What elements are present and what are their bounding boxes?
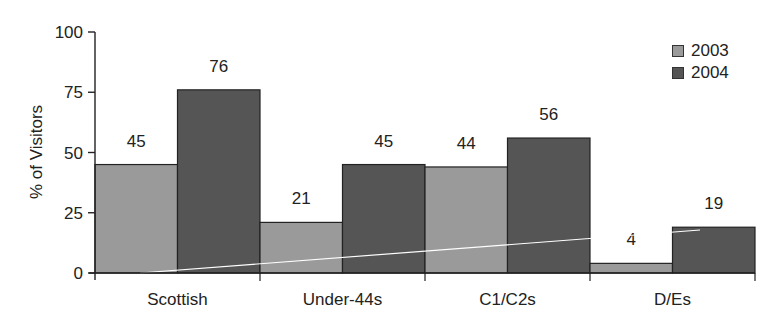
bar-2003-d-es (590, 263, 673, 273)
bar-2003-scottish (95, 165, 178, 273)
x-tick-label: C1/C2s (479, 290, 536, 309)
legend-label-2004: 2004 (691, 62, 729, 84)
legend: 2003 2004 (672, 40, 729, 84)
bar-2004-d-es (673, 227, 756, 273)
legend-label-2003: 2003 (691, 40, 729, 62)
legend-swatch-2003 (672, 45, 684, 57)
legend-item-2004: 2004 (672, 62, 729, 84)
bar-2004-c1-c2s (508, 138, 591, 273)
bar-2003-under-44s (260, 222, 343, 273)
bar-chart: 457621454456419 0255075100 ScottishUnder… (0, 0, 771, 327)
legend-item-2003: 2003 (672, 40, 729, 62)
value-label: 19 (704, 194, 723, 213)
legend-swatch-2004 (672, 67, 684, 79)
value-label: 21 (292, 189, 311, 208)
y-tick-label: 100 (55, 23, 83, 42)
y-axis-title: % of Visitors (27, 105, 46, 199)
x-tick-label: Scottish (147, 290, 207, 309)
value-label: 45 (374, 132, 393, 151)
bar-2003-c1-c2s (425, 167, 508, 273)
y-tick-label: 50 (64, 144, 83, 163)
bar-2004-scottish (178, 90, 261, 273)
x-tick-label: Under-44s (303, 290, 382, 309)
y-tick-label: 25 (64, 204, 83, 223)
bars-group (95, 90, 755, 273)
value-label: 45 (127, 132, 146, 151)
value-label: 76 (209, 57, 228, 76)
y-tick-label: 0 (74, 264, 83, 283)
x-axis-labels: ScottishUnder-44sC1/C2sD/Es (147, 290, 691, 309)
x-tick-label: D/Es (654, 290, 691, 309)
y-tick-label: 75 (64, 83, 83, 102)
value-label: 4 (627, 230, 636, 249)
value-label: 44 (457, 134, 476, 153)
value-label: 56 (539, 105, 558, 124)
